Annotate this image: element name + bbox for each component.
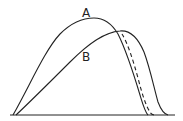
curve-a-label: A xyxy=(82,6,91,20)
curve-b-label: B xyxy=(82,50,90,64)
curve-intermediate-dashed xyxy=(122,34,155,115)
curve-diagram: A B xyxy=(0,0,183,121)
